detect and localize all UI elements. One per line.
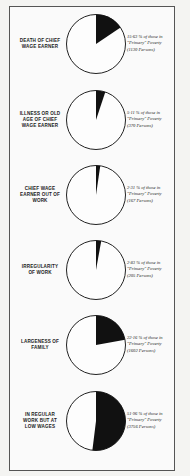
pie-chart [65,164,127,226]
cause-label: Chief WageEarner Out ofWork [12,186,68,205]
percent-caption: 51·96 % of those in"Primary" Poverty(375… [127,411,179,430]
percent-caption: 2·31 % of those in"Primary" Poverty(167 … [127,185,179,204]
pie-row: Death of ChiefWage Earner15·63 % of thos… [10,11,174,77]
percent-caption: 5·11 % of those in"Primary" Poverty(370 … [127,110,179,129]
chart-frame: Death of ChiefWage Earner15·63 % of thos… [9,6,175,471]
cause-label: Death of ChiefWage Earner [12,38,68,50]
pie-row: Irregularityof Work2·83 % of those in"Pr… [10,237,174,303]
pie-chart [65,314,127,376]
pie-chart [65,89,127,151]
percent-caption: 2·83 % of those in"Primary" Poverty(205 … [127,260,179,279]
percent-caption: 15·63 % of those in"Primary" Poverty(113… [127,34,179,53]
pie-row: Chief WageEarner Out ofWork2·31 % of tho… [10,162,174,228]
pie-row: In RegularWork but atLow Wages51·96 % of… [10,388,174,454]
pie-slice [92,392,125,451]
cause-label: In RegularWork but atLow Wages [12,412,68,431]
cause-label: Illness or OldAge of ChiefWage Earner [12,111,68,130]
cause-label: Largeness ofFamily [12,339,68,351]
pie-chart [65,239,127,301]
pie-chart [65,390,127,452]
pie-row: Largeness ofFamily22·16 % of those in"Pr… [10,312,174,378]
pie-row: Illness or OldAge of ChiefWage Earner5·1… [10,87,174,153]
pie-chart [65,13,127,75]
percent-caption: 22·16 % of those in"Primary" Poverty(160… [127,335,179,354]
cause-label: Irregularityof Work [12,264,68,276]
